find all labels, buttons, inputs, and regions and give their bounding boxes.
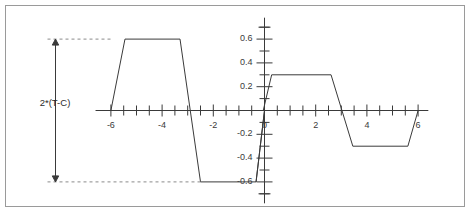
y-tick-label: -0.4 [211,153,253,162]
x-tick-label: 6 [404,121,432,130]
dimension-arrowhead-up [52,39,58,45]
x-tick-label: -6 [97,121,125,130]
waveform-right-trapezoid-wave [256,75,418,182]
dimension-arrowhead-down [52,176,58,182]
amplitude-dimension-label: 2*(T-C) [27,97,83,108]
x-tick-label: 4 [353,121,381,130]
x-tick-label: 0 [251,121,279,130]
y-tick-label: 0.2 [211,82,253,91]
x-tick-label: -4 [148,121,176,130]
figure-canvas: 2*(T-C) -6-4-20246 0.60.40.2-0.2-0.4-0.6 [0,0,471,214]
x-tick-label: -2 [199,121,227,130]
x-tick-label: 2 [302,121,330,130]
y-tick-label: -0.2 [211,129,253,138]
y-tick-label: 0.4 [211,58,253,67]
y-tick-label: -0.6 [211,177,253,186]
y-tick-label: 0.6 [211,34,253,43]
